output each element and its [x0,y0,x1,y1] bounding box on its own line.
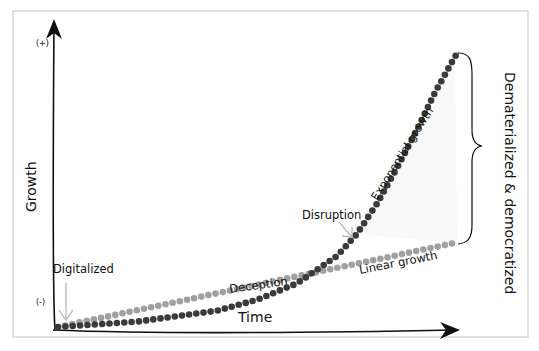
data-point [428,97,435,104]
data-point [112,312,119,319]
data-point [184,296,191,303]
data-point [212,290,219,297]
data-point [162,301,169,308]
data-point [334,265,341,272]
data-point [77,322,84,329]
brace [458,53,482,244]
data-point [291,274,298,281]
data-point [365,214,372,221]
data-point [207,308,214,315]
data-point [179,312,186,319]
data-point [155,303,162,310]
data-point [164,314,171,321]
x-axis-label: Time [237,309,272,325]
y-axis-label: Growth [23,161,39,212]
data-point [84,322,91,329]
data-point [341,263,348,270]
data-point [290,282,297,289]
growth-diagram: (+) (-) Growth Time Digitalized Deceptio… [0,0,539,351]
data-point [198,293,205,300]
data-point [357,226,364,233]
data-point [193,310,200,317]
data-point [242,300,249,307]
data-point [105,313,112,320]
data-point [438,78,445,85]
data-point [141,306,148,313]
data-point [92,321,99,328]
y-bottom-marker: (-) [36,298,45,307]
linear-growth-label: Linear growth [358,248,439,277]
data-point [177,298,184,305]
data-point [343,243,350,250]
data-point [169,299,176,306]
data-point [126,309,133,316]
data-point [121,319,128,326]
data-point [98,315,105,322]
data-point [452,52,459,59]
y-axis [53,22,55,330]
data-point [215,307,222,314]
data-point [263,293,270,300]
data-point [348,262,355,269]
data-point [431,91,438,98]
data-point [338,248,345,255]
data-point [119,310,126,317]
data-point [106,320,113,327]
data-point [157,315,164,322]
disruption-label: Disruption [302,208,361,222]
data-point [326,258,333,265]
data-point [314,266,321,273]
data-point [303,274,310,281]
data-point [136,318,143,325]
data-point [235,302,242,309]
data-point [55,324,62,331]
data-point [442,242,449,249]
data-point [308,270,315,277]
data-point [228,303,235,310]
data-point [186,311,193,318]
digitalized-label: Digitalized [53,262,114,276]
data-point [148,304,155,311]
data-point [327,266,334,273]
data-point [150,316,157,323]
data-point [449,240,456,247]
data-point [332,254,339,261]
data-point [270,290,277,297]
data-point [369,207,376,214]
gap-label: Dematerialized & democratized [502,72,518,294]
data-point [69,323,76,330]
data-point [205,292,212,299]
data-point [200,309,207,316]
data-point [220,289,227,296]
data-point [320,262,327,269]
data-point [449,59,456,66]
data-point [249,298,256,305]
data-point [347,238,354,245]
data-point [143,317,150,324]
data-point [256,295,263,302]
data-point [445,65,452,72]
data-point [352,232,359,239]
data-point [297,278,304,285]
data-point [62,323,69,330]
data-point [172,313,179,320]
data-point [222,305,229,312]
x-axis [53,330,456,333]
data-point [114,320,121,327]
data-point [128,319,135,326]
data-point [434,84,441,91]
digitalized-arrow-icon [59,283,73,320]
data-point [442,72,449,79]
data-point [361,220,368,227]
data-point [99,321,106,328]
data-point [191,295,198,302]
y-top-marker: (+) [36,39,49,48]
data-point [134,307,141,314]
